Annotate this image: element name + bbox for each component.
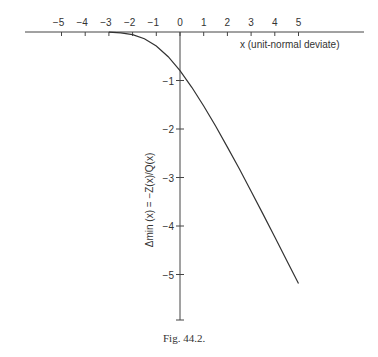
x-tick-label: 0 bbox=[177, 17, 183, 28]
data-curve bbox=[109, 32, 299, 283]
chart: −5−4−3−2−1012345 −1−2−3−4−5 x (unit-norm… bbox=[0, 0, 378, 357]
x-tick-label: −2 bbox=[124, 17, 136, 28]
figure-caption: Fig. 44.2. bbox=[163, 332, 205, 344]
x-tick-label: 1 bbox=[201, 17, 207, 28]
x-tick-label: −5 bbox=[53, 17, 65, 28]
x-tick-label: 3 bbox=[248, 17, 254, 28]
x-ticks: −5−4−3−2−1012345 bbox=[53, 17, 302, 36]
y-ticks: −1−2−3−4−5 bbox=[163, 76, 184, 281]
x-tick-label: −3 bbox=[100, 17, 112, 28]
y-axis-title: Δmin (x) = −Z(x)/Q(x) bbox=[144, 153, 155, 247]
x-tick-label: −1 bbox=[148, 17, 160, 28]
x-axis-title: x (unit-normal deviate) bbox=[240, 39, 339, 50]
x-tick-label: 4 bbox=[272, 17, 278, 28]
y-tick-label: −2 bbox=[163, 124, 175, 135]
y-tick-label: −5 bbox=[163, 270, 175, 281]
y-tick-label: −3 bbox=[163, 173, 175, 184]
y-tick-label: −4 bbox=[163, 221, 175, 232]
x-tick-label: 2 bbox=[225, 17, 231, 28]
x-tick-label: −4 bbox=[76, 17, 88, 28]
y-tick-label: −1 bbox=[163, 76, 175, 87]
x-tick-label: 5 bbox=[296, 17, 302, 28]
axes bbox=[25, 32, 364, 320]
